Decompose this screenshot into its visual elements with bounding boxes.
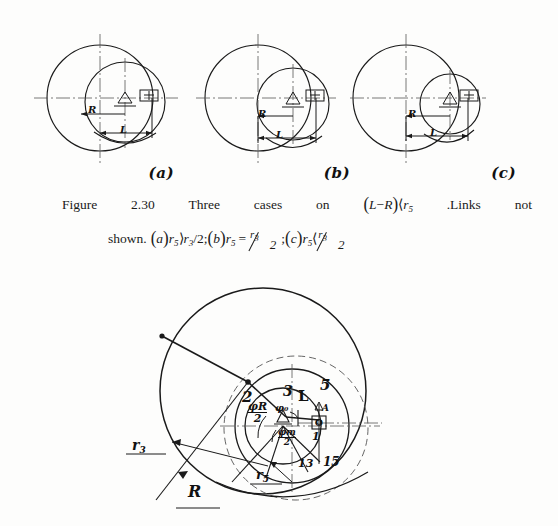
figure-a: R L (a)	[32, 28, 192, 178]
case-a-expression: (a)r5⟩r3/2;	[151, 228, 208, 248]
expr-r-subscript: 5	[408, 204, 413, 214]
phi-m-numerator: φm	[278, 428, 296, 437]
figure-b-sublabel: (b)	[324, 164, 350, 182]
expr-close-paren: )	[392, 193, 398, 215]
phi-R-denominator: 2	[248, 412, 267, 424]
angle-label-phi-zero: φ₀	[275, 403, 288, 413]
figure-c: R L (c)	[350, 28, 510, 178]
case-c-fraction: r32	[318, 232, 344, 249]
pivot-label-A: A	[322, 404, 329, 413]
case-c-open: (	[285, 227, 291, 249]
figure-page: R L (a)	[0, 0, 558, 526]
link-rim-to-joint	[162, 336, 248, 382]
case-b-fraction: r32	[250, 232, 276, 249]
radius-label-r3: r3	[132, 438, 146, 455]
case-b-open: (	[208, 227, 214, 249]
caption-inequality-expression: (L−R)⟨r5	[363, 194, 413, 214]
caption-word-shown: shown.	[108, 231, 147, 247]
case-b-equals: =	[238, 231, 246, 246]
case-a-close: )	[163, 227, 169, 249]
figure-caption: Figure 2.30 Three cases on (L−R)⟨r5 .Lin…	[0, 186, 558, 266]
case-b-letter: b	[213, 231, 220, 246]
pivot-label-O: O	[315, 419, 323, 428]
caption-word-cases: cases	[254, 197, 282, 213]
case-b-r-subscript: 5	[231, 238, 236, 248]
link-label-13: 13	[298, 458, 313, 469]
case-a-letter: a	[156, 231, 163, 246]
case-b-denominator: 2	[270, 237, 277, 253]
figure-c-L-arrow-left	[406, 134, 412, 138]
radius-label-r5: r5	[256, 468, 269, 484]
caption-word-on: on	[316, 197, 330, 213]
case-b-expression: (b)r5=r32;	[208, 228, 286, 249]
caption-tail-links: .Links	[447, 197, 481, 213]
phi-m-denominator: 2	[278, 437, 296, 447]
case-c-denominator: 2	[338, 237, 345, 253]
figure-b-label-L: L	[276, 129, 283, 140]
R-radius-line	[156, 382, 248, 500]
link-label-5: 5	[320, 378, 330, 393]
angle-label-phi-m-half: φm 2	[278, 428, 296, 447]
case-c-less-than: ⟨	[312, 231, 317, 246]
caption-word-figure: Figure	[62, 197, 97, 213]
r3-leader-line	[172, 442, 268, 466]
large-kinematic-diagram: 2 3 L 5 1 13 15 r3 r5 R φR 2 φm 2 φ₀ O A	[120, 286, 450, 524]
caption-figure-number: 2.30	[131, 197, 155, 213]
expr-open-paren: (	[363, 193, 369, 215]
caption-tail-not: not	[515, 197, 532, 213]
figure-b-label-R: R	[258, 108, 266, 119]
rim-joint-node	[159, 333, 164, 338]
figure-c-sublabel: (c)	[491, 164, 516, 182]
figure-b-L-arrow-left	[258, 136, 264, 140]
R-radius-arrow	[178, 471, 188, 479]
angle-label-phi-R-half: φR 2	[248, 401, 267, 424]
figure-b: R L (b)	[196, 28, 356, 178]
case-b-close: )	[220, 227, 226, 249]
expr-R: R	[384, 197, 392, 212]
caption-line-2: shown. (a)r5⟩r3/2; (b)r5=r32; (c)r5⟨r32	[108, 228, 345, 249]
dimension-label-L: L	[298, 389, 309, 404]
link-label-1: 1	[312, 431, 320, 442]
figure-b-L-arrow-right	[310, 136, 316, 140]
case-a-divisor: /2;	[193, 231, 207, 246]
figure-a-R-arrow	[81, 112, 87, 116]
figure-c-label-R: R	[408, 108, 416, 119]
r3-leader-arrow	[172, 439, 181, 446]
link-label-15: 15	[323, 456, 340, 468]
radius-label-R: R	[188, 484, 201, 500]
link-label-3: 3	[283, 384, 293, 398]
case-c-expression: (c)r5⟨r32	[285, 228, 345, 249]
phi-R-numerator: φR	[248, 401, 267, 412]
figure-c-drawing	[350, 28, 510, 178]
figure-a-drawing	[32, 28, 192, 178]
case-a-open: (	[151, 227, 157, 249]
figure-a-label-R: R	[88, 104, 96, 115]
caption-word-three: Three	[189, 197, 220, 213]
figure-a-sublabel: (a)	[149, 164, 174, 182]
figure-b-drawing	[196, 28, 356, 178]
caption-line-1: Figure 2.30 Three cases on (L−R)⟨r5 .Lin…	[62, 194, 532, 214]
case-c-close: )	[297, 227, 303, 249]
expr-L: L	[369, 197, 377, 212]
figure-c-label-L: L	[430, 127, 437, 138]
figure-a-label-L: L	[120, 124, 127, 135]
small-figures-row: R L (a)	[0, 28, 558, 178]
